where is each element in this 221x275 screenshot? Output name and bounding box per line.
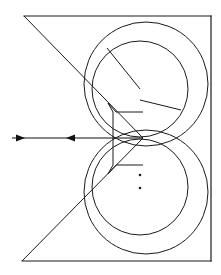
line-art-diagram <box>0 0 221 275</box>
figure-canvas <box>0 0 221 275</box>
center-dot-upper <box>139 174 142 177</box>
center-dot-lower <box>139 187 142 190</box>
